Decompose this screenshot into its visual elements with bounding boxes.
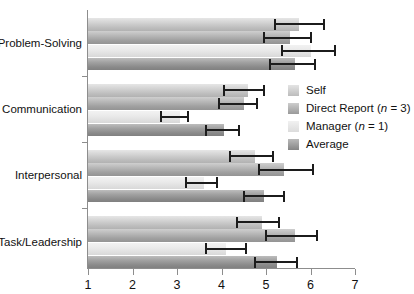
- error-bar-cap: [314, 59, 316, 70]
- error-bar-cap: [256, 98, 258, 109]
- legend-label-manager: Manager (n = 1): [306, 120, 388, 133]
- error-bar-cap: [312, 164, 314, 175]
- y-axis-group-tick: [82, 208, 88, 209]
- category-label-interpersonal: Interpersonal: [0, 169, 82, 181]
- bar: [88, 18, 299, 31]
- error-bar-cap: [258, 164, 260, 175]
- error-bar-cap: [281, 45, 283, 56]
- bar: [88, 124, 224, 137]
- bar: [88, 58, 295, 71]
- error-bar-cap: [205, 125, 207, 136]
- error-bar-cap: [218, 98, 220, 109]
- error-bar-cap: [278, 217, 280, 228]
- legend-label-direct-report: Direct Report (n = 3): [306, 102, 411, 115]
- error-bar-cap: [185, 177, 187, 188]
- x-axis-tick-label: 1: [75, 278, 101, 292]
- error-bar-line: [206, 248, 246, 250]
- error-bar-line: [264, 37, 311, 39]
- error-bar-line: [259, 169, 312, 171]
- bar-chart: Problem-Solving Communication Interperso…: [0, 0, 414, 294]
- category-label-task-leadership: Task/Leadership: [0, 236, 82, 248]
- error-bar-cap: [245, 243, 247, 254]
- error-bar-line: [237, 221, 279, 223]
- error-bar-line: [219, 103, 257, 105]
- y-axis-group-tick: [82, 142, 88, 143]
- legend-item-self: Self: [288, 82, 414, 99]
- error-bar-cap: [223, 85, 225, 96]
- bar: [88, 163, 284, 176]
- category-label-problem-solving: Problem-Solving: [0, 37, 82, 49]
- error-bar-cap: [265, 230, 267, 241]
- error-bar-cap: [205, 243, 207, 254]
- legend: Self Direct Report (n = 3) Manager (n = …: [288, 82, 414, 154]
- error-bar-line: [275, 23, 324, 25]
- error-bar-line: [255, 261, 297, 263]
- legend-swatch-direct-report: [288, 103, 299, 114]
- error-bar-cap: [238, 125, 240, 136]
- error-bar-cap: [216, 177, 218, 188]
- legend-swatch-manager: [288, 121, 299, 132]
- error-bar-cap: [236, 217, 238, 228]
- error-bar-line: [161, 116, 188, 118]
- x-axis-tick: [266, 269, 267, 275]
- x-axis-tick-label: 4: [209, 278, 235, 292]
- x-axis-tick: [311, 269, 312, 275]
- error-bar-cap: [323, 19, 325, 30]
- error-bar-line: [230, 155, 272, 157]
- error-bar-line: [244, 195, 284, 197]
- error-bar-line: [206, 129, 239, 131]
- y-axis-group-tick: [82, 76, 88, 77]
- legend-label-average: Average: [306, 138, 349, 151]
- x-axis-tick-label: 2: [120, 278, 146, 292]
- x-axis-tick: [88, 269, 89, 275]
- error-bar-cap: [283, 191, 285, 202]
- error-bar-cap: [274, 19, 276, 30]
- error-bar-cap: [272, 151, 274, 162]
- error-bar-cap: [187, 111, 189, 122]
- legend-item-direct-report: Direct Report (n = 3): [288, 100, 414, 117]
- legend-item-manager: Manager (n = 1): [288, 118, 414, 135]
- x-axis-tick-label: 5: [253, 278, 279, 292]
- error-bar-line: [186, 182, 217, 184]
- error-bar-cap: [229, 151, 231, 162]
- legend-swatch-self: [288, 85, 299, 96]
- error-bar-line: [270, 63, 315, 65]
- error-bar-cap: [316, 230, 318, 241]
- bar: [88, 229, 295, 242]
- category-label-communication: Communication: [0, 103, 82, 115]
- error-bar-cap: [243, 191, 245, 202]
- error-bar-cap: [263, 32, 265, 43]
- error-bar-line: [266, 235, 317, 237]
- bar: [88, 190, 264, 203]
- x-axis-tick-label: 6: [298, 278, 324, 292]
- legend-swatch-average: [288, 139, 299, 150]
- x-axis-tick: [177, 269, 178, 275]
- error-bar-cap: [310, 32, 312, 43]
- x-axis-tick-label: 7: [342, 278, 368, 292]
- error-bar-cap: [334, 45, 336, 56]
- error-bar-line: [224, 89, 264, 91]
- x-axis-tick-label: 3: [164, 278, 190, 292]
- legend-item-average: Average: [288, 136, 414, 153]
- x-axis-tick: [355, 269, 356, 275]
- bar: [88, 31, 290, 44]
- x-axis-tick: [222, 269, 223, 275]
- error-bar-cap: [160, 111, 162, 122]
- error-bar-line: [282, 50, 335, 52]
- x-axis-tick: [133, 269, 134, 275]
- error-bar-cap: [263, 85, 265, 96]
- legend-label-self: Self: [306, 84, 326, 97]
- bar: [88, 256, 277, 269]
- error-bar-cap: [296, 257, 298, 268]
- error-bar-cap: [269, 59, 271, 70]
- bar: [88, 45, 311, 58]
- error-bar-cap: [254, 257, 256, 268]
